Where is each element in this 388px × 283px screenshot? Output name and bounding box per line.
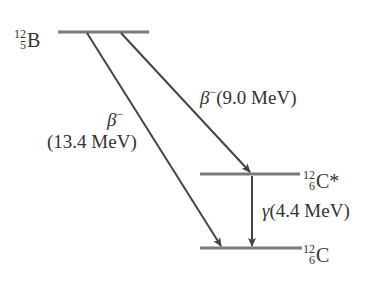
- level-label-b12: 12 5 B: [14, 22, 40, 51]
- decay-diagram: 12 5 B 12 6 C * 12 6 C β−(9.0 MeV): [0, 0, 388, 283]
- element-symbol: C: [316, 171, 329, 191]
- excited-state-mark: *: [329, 171, 339, 191]
- particle-symbol: γ: [262, 200, 270, 221]
- beta-direct-energy-label: (13.4 MeV): [47, 132, 137, 151]
- atomic-number: 6: [303, 181, 315, 192]
- atomic-number: 5: [14, 40, 26, 51]
- gamma-label: γ(4.4 MeV): [262, 201, 350, 220]
- level-label-c12-ground: 12 6 C: [303, 237, 329, 266]
- atomic-number: 6: [303, 255, 315, 266]
- energy-value: (4.4 MeV): [270, 200, 350, 221]
- beta-excited-label: β−(9.0 MeV): [200, 86, 296, 107]
- energy-value: (9.0 MeV): [216, 87, 296, 108]
- beta-direct-particle-label: β−: [107, 108, 123, 129]
- charge-symbol: −: [116, 107, 123, 121]
- element-symbol: C: [316, 245, 329, 265]
- level-label-c12-excited: 12 6 C *: [303, 163, 339, 192]
- element-symbol: B: [27, 30, 40, 50]
